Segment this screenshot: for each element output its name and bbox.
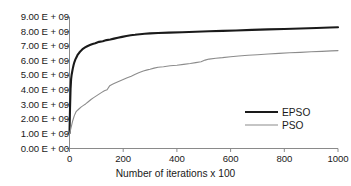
x-axis-title: Number of iterations x 100 <box>0 169 351 179</box>
x-axis-tick-label: 600 <box>223 154 239 164</box>
legend-label-pso: PSO <box>282 121 304 131</box>
y-axis-tick-label: 6.00 E + 09 <box>21 56 69 66</box>
legend-label-epso: EPSO <box>282 108 310 118</box>
y-axis-tick-label: 2.00 E + 09 <box>21 114 69 124</box>
chart-container: 0.00 E + 001.00 E + 092.00 E + 093.00 E … <box>0 0 351 186</box>
y-axis-tick-label: 4.00 E + 09 <box>21 85 69 95</box>
x-axis-tick-label: 0 <box>67 154 72 164</box>
y-axis-tick-label: 7.00 E + 09 <box>21 41 69 51</box>
x-axis-tick-label: 200 <box>115 154 131 164</box>
y-axis-tick-label: 8.00 E + 09 <box>21 27 69 37</box>
x-axis-tick-label: 400 <box>169 154 185 164</box>
x-axis-ticks <box>70 149 339 153</box>
y-axis-tick-label: 9.00 E + 09 <box>21 12 69 22</box>
x-axis-tick-label: 800 <box>276 154 292 164</box>
y-axis-tick-label: 5.00 E + 09 <box>21 70 69 80</box>
y-axis-tick-label: 0.00 E + 00 <box>21 144 69 154</box>
x-axis-tick-label: 1000 <box>328 154 349 164</box>
legend-swatches <box>245 112 278 125</box>
y-axis-tick-label: 3.00 E + 09 <box>21 100 69 110</box>
y-axis-tick-label: 1.00 E + 09 <box>21 129 69 139</box>
